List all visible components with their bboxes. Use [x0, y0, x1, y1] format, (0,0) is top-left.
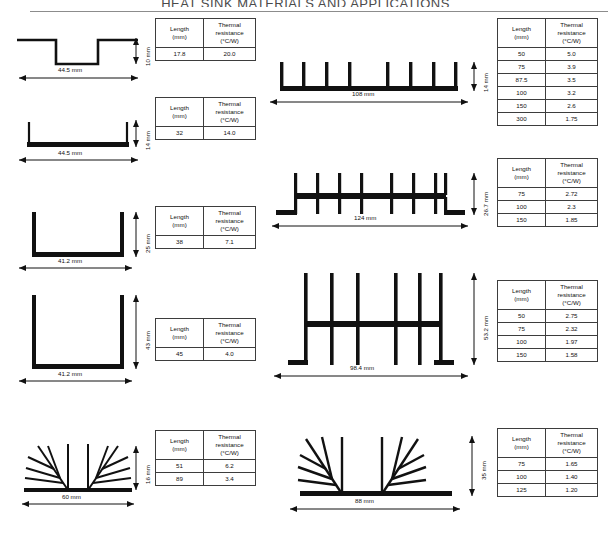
cell-resistance: 4.0 [204, 348, 256, 361]
table-profile-6: Length (mm) Thermal resistance (°C/W) 50… [497, 18, 598, 126]
cell-length: 125 [498, 484, 546, 497]
table-profile-7: Length (mm) Thermal resistance (°C/W) 75… [497, 158, 598, 227]
cell-resistance: 1.20 [546, 484, 598, 497]
figure-profile-1: 44.5 mm [14, 26, 144, 86]
cell-length: 75 [498, 61, 546, 74]
figure-profile-2-height-dim: 14 mm [128, 110, 144, 156]
cell-resistance: 1.40 [546, 471, 598, 484]
table-row: 87.5 3.5 [498, 74, 598, 87]
col-header-length: Length (mm) [498, 159, 546, 188]
table-row: 100 1.97 [498, 336, 598, 349]
dim-height-label: 26.7 mm [482, 192, 489, 216]
cell-resistance: 5.0 [546, 48, 598, 61]
table-row: 75 3.9 [498, 61, 598, 74]
cell-length: 89 [156, 473, 204, 486]
table-row: 50 2.75 [498, 310, 598, 323]
cell-length: 75 [498, 188, 546, 201]
table-profile-5: Length (mm) Thermal resistance (°C/W) 51… [155, 430, 256, 486]
table-row: 75 2.32 [498, 323, 598, 336]
dim-width-label: 98.4 mm [350, 364, 374, 371]
table-row: 32 14.0 [156, 127, 256, 140]
table-row: 150 2.6 [498, 100, 598, 113]
table-row: 125 1.20 [498, 484, 598, 497]
cell-length: 150 [498, 349, 546, 362]
cell-resistance: 6.2 [204, 460, 256, 473]
col-header-length: Length (mm) [156, 319, 204, 348]
document-page: HEAT SINK MATERIALS AND APPLICATIONS 44.… [0, 0, 611, 539]
cell-resistance: 20.0 [204, 48, 256, 61]
table-row: 45 4.0 [156, 348, 256, 361]
figure-profile-8-height-dim: 53.2 mm [466, 268, 482, 372]
figure-profile-4-height-dim: 43 mm [128, 288, 144, 374]
dim-width-label: 108 mm [352, 90, 374, 97]
cell-resistance: 14.0 [204, 127, 256, 140]
dim-width-label: 44.5 mm [58, 66, 82, 73]
cell-resistance: 7.1 [204, 236, 256, 249]
cell-resistance: 2.72 [546, 188, 598, 201]
figure-profile-6-height-dim: 14 mm [466, 52, 482, 98]
dim-height-label: 16 mm [144, 465, 151, 484]
col-header-resistance: Thermal resistance (°C/W) [546, 281, 598, 310]
col-header-resistance: Thermal resistance (°C/W) [546, 19, 598, 48]
figure-profile-2: 44.5 mm [14, 110, 144, 170]
cell-length: 38 [156, 236, 204, 249]
dim-width-label: 41.2 mm [58, 257, 82, 264]
dim-height-label: 14 mm [144, 131, 151, 150]
col-header-length: Length (mm) [498, 19, 546, 48]
dim-height-label: 53.2 mm [482, 316, 489, 340]
table-row: 100 1.40 [498, 471, 598, 484]
dim-height-label: 10 mm [144, 47, 151, 66]
cell-length: 75 [498, 458, 546, 471]
table-row: 150 1.85 [498, 214, 598, 227]
cell-resistance: 1.75 [546, 113, 598, 126]
cell-resistance: 1.58 [546, 349, 598, 362]
table-profile-9: Length (mm) Thermal resistance (°C/W) 75… [497, 428, 598, 497]
col-header-length: Length (mm) [156, 98, 204, 127]
page-header-title: HEAT SINK MATERIALS AND APPLICATIONS [0, 0, 611, 7]
figure-profile-6: 108 mm [262, 50, 477, 110]
table-profile-4: Length (mm) Thermal resistance (°C/W) 45… [155, 318, 256, 361]
figure-profile-5: 60 mm [10, 428, 145, 518]
dim-height-label: 35 mm [480, 461, 487, 480]
cell-resistance: 3.4 [204, 473, 256, 486]
figure-profile-1-height-dim: 10 mm [128, 26, 144, 72]
col-header-length: Length (mm) [156, 207, 204, 236]
col-header-length: Length (mm) [498, 429, 546, 458]
cell-length: 100 [498, 336, 546, 349]
figure-profile-9-height-dim: 35 mm [464, 428, 480, 504]
cell-length: 87.5 [498, 74, 546, 87]
table-profile-8: Length (mm) Thermal resistance (°C/W) 50… [497, 280, 598, 362]
figure-profile-3: 41.2 mm [14, 205, 144, 275]
dim-height-label: 14 mm [482, 73, 489, 92]
table-row: 38 7.1 [156, 236, 256, 249]
cell-resistance: 3.2 [546, 87, 598, 100]
cell-resistance: 1.97 [546, 336, 598, 349]
table-row: 75 2.72 [498, 188, 598, 201]
dim-width-label: 41.2 mm [58, 370, 82, 377]
cell-length: 100 [498, 471, 546, 484]
figure-profile-8: 98.4 mm [262, 268, 477, 388]
col-header-resistance: Thermal resistance (°C/W) [204, 98, 256, 127]
col-header-length: Length (mm) [156, 19, 204, 48]
cell-length: 150 [498, 100, 546, 113]
col-header-resistance: Thermal resistance (°C/W) [204, 207, 256, 236]
cell-length: 300 [498, 113, 546, 126]
cell-resistance: 3.9 [546, 61, 598, 74]
dim-width-label: 88 mm [355, 497, 374, 504]
cell-length: 45 [156, 348, 204, 361]
cell-length: 100 [498, 201, 546, 214]
figure-profile-5-height-dim: 16 mm [128, 438, 144, 494]
dim-width-label: 124 mm [354, 214, 376, 221]
table-row: 100 3.2 [498, 87, 598, 100]
header-divider [30, 11, 608, 12]
cell-length: 50 [498, 48, 546, 61]
cell-length: 51 [156, 460, 204, 473]
table-profile-2: Length (mm) Thermal resistance (°C/W) 32… [155, 97, 256, 140]
cell-resistance: 2.6 [546, 100, 598, 113]
col-header-resistance: Thermal resistance (°C/W) [546, 159, 598, 188]
table-row: 300 1.75 [498, 113, 598, 126]
cell-resistance: 2.75 [546, 310, 598, 323]
cell-resistance: 2.32 [546, 323, 598, 336]
figure-profile-7: 124 mm [262, 168, 477, 238]
cell-resistance: 2.3 [546, 201, 598, 214]
